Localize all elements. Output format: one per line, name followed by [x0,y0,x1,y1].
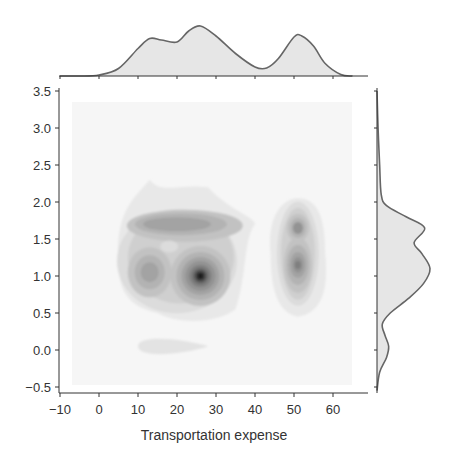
y-tick-label: −0.5 [25,380,51,395]
y-tick-label: 2.0 [33,195,51,210]
x-axis-ticks: −100102030405060 [49,393,340,417]
y-tick-label: 0.5 [33,306,51,321]
x-tick-label: 30 [209,402,223,417]
y-tick-label: 1.0 [33,269,51,284]
marginal-y-fill [377,91,430,391]
marginal-x-kde [60,26,353,76]
y-tick-label: 0.0 [33,343,51,358]
x-tick-label: 20 [170,402,184,417]
kde-contour-level [198,274,203,279]
kde-contour-level [141,262,159,282]
marginal-x-fill [60,26,353,76]
x-tick-label: 40 [248,402,262,417]
x-tick-label: −10 [49,402,71,417]
x-tick-label: 0 [95,402,102,417]
joint-kde-plot: −100102030405060 −0.50.00.51.01.52.02.53… [0,0,450,465]
y-tick-label: 2.5 [33,158,51,173]
x-tick-label: 50 [287,402,301,417]
y-tick-label: 1.5 [33,232,51,247]
kde-contour-level [293,222,303,234]
y-tick-label: 3.0 [33,121,51,136]
x-axis-label: Transportation expense [141,427,288,443]
kde-contour-level [160,240,178,252]
y-axis-ticks: −0.50.00.51.01.52.02.53.03.5 [25,84,59,395]
x-tick-label: 10 [131,402,145,417]
y-tick-label: 3.5 [33,84,51,99]
marginal-y-kde [377,91,430,391]
chart-canvas: −100102030405060 −0.50.00.51.01.52.02.53… [0,0,450,465]
kde-contour-level [295,261,301,269]
kde-contour-level [143,217,211,231]
x-tick-label: 60 [326,402,340,417]
